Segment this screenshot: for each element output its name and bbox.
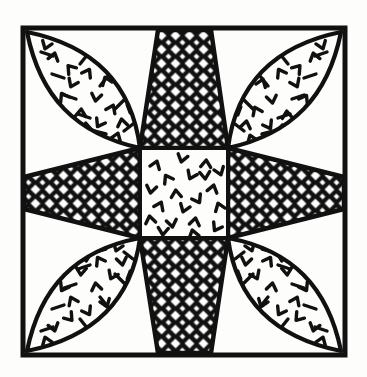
quilt-block-figure — [0, 0, 367, 377]
center-square — [140, 148, 228, 238]
star-point-south — [140, 238, 228, 353]
star-point-north — [140, 30, 228, 148]
quilt-block-drawing — [0, 0, 367, 377]
